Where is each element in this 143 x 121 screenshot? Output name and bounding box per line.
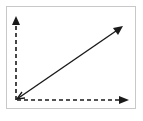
diagonal-arrowhead-icon xyxy=(113,26,123,35)
vector-diagram xyxy=(0,0,143,121)
diagonal-vector-arrow xyxy=(17,31,116,99)
vertical-arrowhead-icon xyxy=(12,16,20,25)
horizontal-arrowhead-icon xyxy=(119,96,129,104)
